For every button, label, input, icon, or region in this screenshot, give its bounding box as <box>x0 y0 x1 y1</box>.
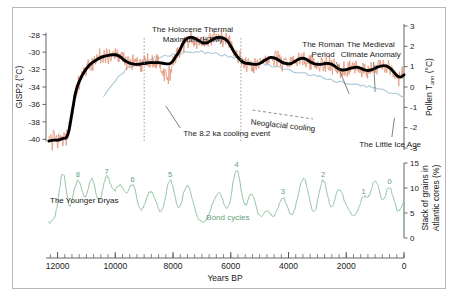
left-axis-tick-label: -40 <box>28 135 40 144</box>
bond-cycle-number: 2 <box>321 170 325 179</box>
right-top-axis-tick-label: -1 <box>410 103 418 112</box>
x-axis-tick-label: 12000 <box>46 261 70 271</box>
right-top-axis-tick-label: 1 <box>410 62 415 71</box>
left-axis-tick-label: -32 <box>28 65 40 74</box>
right-top-axis-tick-label: 2 <box>410 42 415 51</box>
medieval-annotation-line2: Climate Anomaly <box>341 50 401 59</box>
bond-cycles-label: Bond cycles <box>206 213 249 222</box>
roman-annotation-line1: The Roman <box>302 40 344 49</box>
right-bottom-axis-title-line1: Stack of grains in <box>420 165 430 230</box>
younger-dryas-annotation: The Younger Dryas <box>50 196 119 205</box>
right-bottom-axis-tick-label: 10 <box>410 184 419 193</box>
bond-cycle-number: 8 <box>76 170 80 179</box>
htm-annotation-line2: Maximum (HTM) <box>163 35 223 44</box>
chart-canvas: -28-30-32-34-36-38-403210-1-2-3151050120… <box>0 0 460 298</box>
left-axis-tick-label: -36 <box>28 100 40 109</box>
8-2ka-leader-line <box>166 106 180 128</box>
right-bottom-axis-title-line2: Atlantic cores (%) <box>431 165 441 232</box>
bond-cycle-number: 6 <box>131 175 135 184</box>
x-axis-tick-label: 4000 <box>279 261 298 271</box>
bond-cycle-number: 1 <box>361 187 365 196</box>
right-top-axis-tick-label: 3 <box>410 22 415 31</box>
left-axis-tick-label: -34 <box>28 83 40 92</box>
right-bottom-axis-tick-label: 5 <box>410 209 415 218</box>
htm-annotation-line1: The Holocene Thermal <box>152 25 233 34</box>
x-axis-tick-label: 0 <box>402 261 407 271</box>
right-bottom-axis-tick-label: 15 <box>410 159 419 168</box>
right-top-axis-tick-label: 0 <box>410 83 415 92</box>
bond-cycle-number: 5 <box>168 170 172 179</box>
8-2ka-annotation: The 8.2 ka cooling event <box>183 129 271 138</box>
climate-figure: -28-30-32-34-36-38-403210-1-2-3151050120… <box>0 0 460 298</box>
left-axis-tick-label: -30 <box>28 48 40 57</box>
little-ice-age-leader-line <box>392 118 395 137</box>
left-axis-tick-label: -28 <box>28 31 40 40</box>
right-bottom-axis-tick-label: 0 <box>410 234 415 243</box>
bond-cycle-number: 4 <box>234 160 238 169</box>
x-axis-tick-label: 6000 <box>221 261 240 271</box>
x-axis-title: Years BP <box>207 273 242 283</box>
left-axis-tick-label: -38 <box>28 118 40 127</box>
little-ice-age-annotation: The Little Ice Age <box>359 140 421 149</box>
x-axis-tick-label: 10000 <box>103 261 127 271</box>
neoglacial-bracket <box>252 110 313 119</box>
roman-leader-line <box>336 62 349 94</box>
x-axis-tick-label: 2000 <box>337 261 356 271</box>
bond-cycle-number: 3 <box>281 187 285 196</box>
left-axis-title: GISP2 (°C) <box>14 66 24 109</box>
x-axis-tick-label: 8000 <box>164 261 183 271</box>
roman-annotation-line2: Period <box>312 50 335 59</box>
bond-cycle-number: 7 <box>105 167 109 176</box>
bond-cycle-number: 0 <box>387 177 391 186</box>
medieval-annotation-line1: The Medieval <box>347 40 395 49</box>
right-top-axis-title: Pollen Tann (°C) <box>424 58 435 116</box>
right-top-axis-tick-label: -2 <box>410 123 418 132</box>
